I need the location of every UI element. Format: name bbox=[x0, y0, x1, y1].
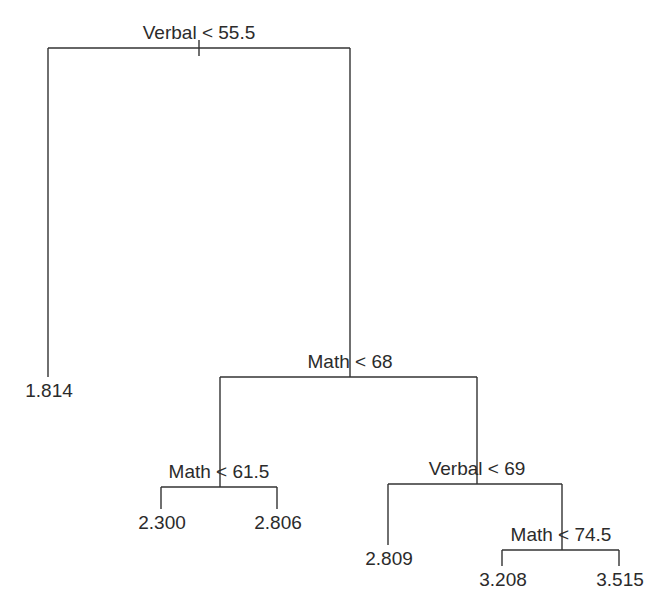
node-label-verbal-69: Verbal < 69 bbox=[429, 459, 526, 478]
node-label-math-68: Math < 68 bbox=[307, 352, 392, 371]
node-label-math-74-5: Math < 74.5 bbox=[511, 525, 612, 544]
tree-branch-lines bbox=[0, 0, 662, 604]
leaf-label-3-208: 3.208 bbox=[479, 570, 527, 589]
decision-tree-figure: Verbal < 55.5 Math < 68 Math < 61.5 Verb… bbox=[0, 0, 662, 604]
leaf-label-1-814: 1.814 bbox=[25, 381, 73, 400]
node-label-root: Verbal < 55.5 bbox=[143, 23, 256, 42]
leaf-label-2-300: 2.300 bbox=[138, 513, 186, 532]
leaf-label-2-809: 2.809 bbox=[365, 549, 413, 568]
leaf-label-2-806: 2.806 bbox=[254, 513, 302, 532]
leaf-label-3-515: 3.515 bbox=[596, 570, 644, 589]
node-label-math-61-5: Math < 61.5 bbox=[169, 462, 270, 481]
